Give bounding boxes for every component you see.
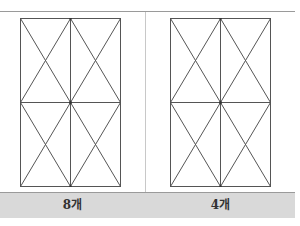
column-divider xyxy=(145,12,146,217)
label-right: 4개 xyxy=(146,193,295,218)
cut-off-text-line xyxy=(0,0,300,6)
figure-left xyxy=(20,18,121,187)
figure-table: 8개 4개 xyxy=(0,11,295,218)
label-row: 8개 4개 xyxy=(0,192,295,218)
label-left: 8개 xyxy=(0,193,145,218)
figure-right xyxy=(170,18,271,187)
